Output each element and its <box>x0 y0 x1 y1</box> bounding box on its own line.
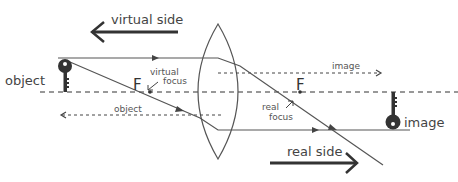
real-focus-pointer-icon <box>286 101 293 108</box>
real-focus-F-label: F <box>296 78 305 93</box>
image-label: image <box>404 116 445 129</box>
object-key-icon <box>58 59 72 92</box>
virtual-focus-F-label: F <box>133 78 142 93</box>
real-side-label: real side <box>287 145 342 158</box>
object-label: object <box>5 74 45 87</box>
ray-direction-arrow-icon <box>175 106 184 112</box>
real-focus-label-line1: real <box>262 103 279 112</box>
virtual-side-label: virtual side <box>111 13 183 26</box>
ray-direction-arrow-icon <box>312 127 319 133</box>
lens-ray-diagram: virtual side real side object image virt… <box>0 0 458 182</box>
image-distance-label: image <box>332 62 360 71</box>
image-key-icon <box>386 92 401 130</box>
ray-direction-arrow-icon <box>328 124 337 130</box>
virtual-focus-point <box>148 90 152 94</box>
ray-direction-arrow-icon <box>152 55 159 61</box>
real-focus-label-line2: focus <box>269 113 293 122</box>
virtual-focus-pointer-icon <box>148 82 158 90</box>
object-distance-label: object <box>114 105 142 114</box>
diagram-canvas <box>0 0 458 182</box>
virtual-focus-label-line2: focus <box>163 77 187 86</box>
